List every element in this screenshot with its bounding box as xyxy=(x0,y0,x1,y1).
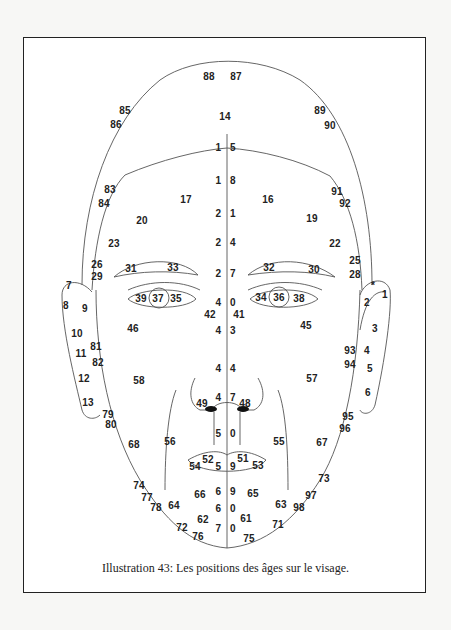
age-label: 52 xyxy=(202,454,214,465)
age-label: 28 xyxy=(349,269,361,280)
age-label: 2 1 xyxy=(216,208,239,219)
age-label: 41 xyxy=(233,309,245,320)
age-label: 6 0 xyxy=(216,503,239,514)
age-label: 85 xyxy=(119,105,131,116)
age-label: 33 xyxy=(167,262,179,273)
age-label: 97 xyxy=(305,490,317,501)
age-label: 2 7 xyxy=(216,268,239,279)
age-label: 16 xyxy=(262,194,274,205)
age-label: 5 xyxy=(367,363,373,374)
age-label: 2 4 xyxy=(216,237,239,248)
age-label: 6 9 xyxy=(216,486,239,497)
age-label: 34 xyxy=(255,292,267,303)
age-label: 91 xyxy=(331,186,343,197)
age-label: 17 xyxy=(180,194,192,205)
age-label: 19 xyxy=(306,213,318,224)
age-label: 31 xyxy=(125,263,137,274)
age-label: 3 xyxy=(372,323,378,334)
age-label: 9 xyxy=(82,303,88,314)
age-label: 72 xyxy=(176,522,188,533)
age-label: 39 xyxy=(135,293,147,304)
age-label: 81 xyxy=(90,341,102,352)
age-label: 66 xyxy=(194,489,206,500)
age-label: 78 xyxy=(150,502,162,513)
age-label: 93 xyxy=(344,345,356,356)
age-label: * xyxy=(371,280,375,291)
age-label: 7 0 xyxy=(216,523,239,534)
age-label: 84 xyxy=(98,198,110,209)
age-label: 42 xyxy=(204,309,216,320)
age-label: 74 xyxy=(133,480,145,491)
age-label: 5 0 xyxy=(216,428,239,439)
age-label: 32 xyxy=(263,262,275,273)
age-label: 1 8 xyxy=(216,175,239,186)
age-label: 51 xyxy=(237,453,249,464)
age-label: 58 xyxy=(133,375,145,386)
figure-caption: Illustration 43: Les positions des âges … xyxy=(0,561,451,576)
face-diagram xyxy=(0,0,451,630)
age-label: 4 4 xyxy=(216,363,239,374)
age-label: 87 xyxy=(230,71,242,82)
age-label: 65 xyxy=(247,488,259,499)
age-label: 49 xyxy=(196,398,208,409)
age-label: 45 xyxy=(300,320,312,331)
age-label: 1 5 xyxy=(216,142,239,153)
age-label: 96 xyxy=(339,423,351,434)
age-label: 8 xyxy=(63,300,69,311)
age-label: 94 xyxy=(344,359,356,370)
age-label: 38 xyxy=(293,293,305,304)
age-label: 22 xyxy=(329,238,341,249)
age-label: 36 xyxy=(273,292,285,303)
age-label: 13 xyxy=(82,397,94,408)
age-label: 12 xyxy=(78,373,90,384)
age-label: 98 xyxy=(293,502,305,513)
age-label: 83 xyxy=(104,184,116,195)
age-label: 63 xyxy=(275,499,287,510)
age-label: 14 xyxy=(219,111,231,122)
age-label: 62 xyxy=(197,514,209,525)
age-label: 55 xyxy=(273,436,285,447)
age-label: 90 xyxy=(324,120,336,131)
age-label: 37 xyxy=(152,293,164,304)
age-label: 2 xyxy=(364,297,370,308)
age-label: 4 7 xyxy=(216,392,239,403)
age-label: 4 0 xyxy=(216,297,239,308)
age-label: 46 xyxy=(127,323,139,334)
age-label: 57 xyxy=(306,373,318,384)
age-label: 30 xyxy=(308,264,320,275)
age-label: 88 xyxy=(203,71,215,82)
age-label: 64 xyxy=(168,500,180,511)
age-label: 95 xyxy=(342,411,354,422)
age-label: 56 xyxy=(164,436,176,447)
age-label: 10 xyxy=(71,328,83,339)
age-label: 4 xyxy=(364,345,370,356)
age-label: 26 xyxy=(91,259,103,270)
age-label: 35 xyxy=(170,293,182,304)
age-label: 54 xyxy=(189,461,201,472)
age-label: 6 xyxy=(365,387,371,398)
age-label: 67 xyxy=(316,437,328,448)
age-label: 75 xyxy=(243,533,255,544)
age-label: 20 xyxy=(136,215,148,226)
age-label: 7 xyxy=(66,280,72,291)
age-label: 25 xyxy=(349,255,361,266)
age-label: 76 xyxy=(192,531,204,542)
age-label: 86 xyxy=(110,119,122,130)
right-eyebrow xyxy=(248,262,335,277)
age-label: 61 xyxy=(240,513,252,524)
age-label: 82 xyxy=(92,357,104,368)
age-label: 29 xyxy=(91,271,103,282)
age-label: 5 9 xyxy=(216,461,239,472)
age-label: 71 xyxy=(272,519,284,530)
age-label: 1 xyxy=(382,289,388,300)
age-label: 73 xyxy=(318,473,330,484)
age-label: 92 xyxy=(339,198,351,209)
age-label: 23 xyxy=(108,238,120,249)
age-label: 80 xyxy=(105,419,117,430)
age-label: 89 xyxy=(314,105,326,116)
age-label: 53 xyxy=(252,460,264,471)
age-label: 11 xyxy=(75,348,86,359)
age-label: 68 xyxy=(128,439,140,450)
age-label: 4 3 xyxy=(216,325,239,336)
age-label: 48 xyxy=(239,398,251,409)
